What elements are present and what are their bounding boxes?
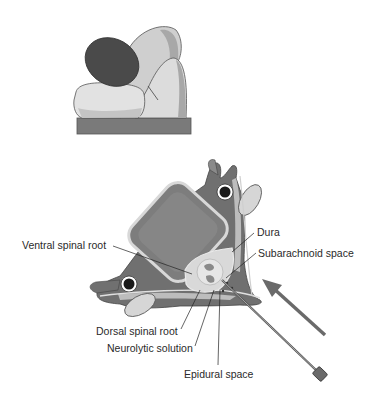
label-dorsal-spinal-root: Dorsal spinal root xyxy=(96,325,178,337)
patient-position-illustration xyxy=(74,27,191,134)
label-ventral-spinal-root: Ventral spinal root xyxy=(22,239,106,251)
label-dura: Dura xyxy=(257,226,280,238)
anatomical-figure xyxy=(0,0,373,400)
label-epidural-space: Epidural space xyxy=(184,368,253,380)
label-neurolytic-solution: Neurolytic solution xyxy=(107,342,193,354)
needle xyxy=(222,280,328,382)
label-subarachnoid-space: Subarachnoid space xyxy=(258,247,354,259)
table xyxy=(77,118,191,134)
